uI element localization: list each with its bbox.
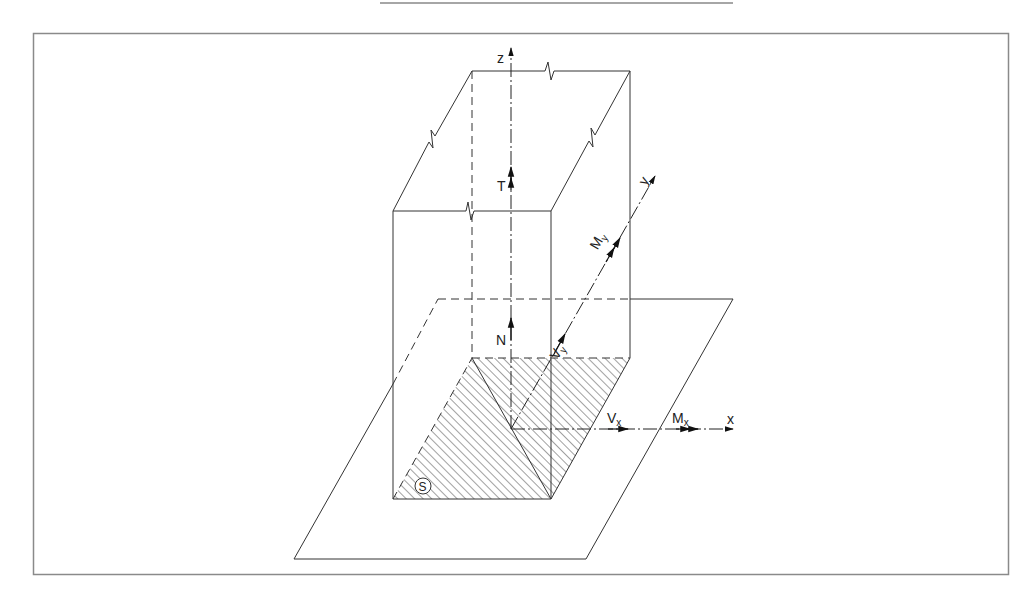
section-label: S xyxy=(419,480,427,494)
normal-label: N xyxy=(496,332,506,348)
moment-y-label: My xyxy=(586,229,610,252)
y-axis-label: y xyxy=(635,174,652,188)
z-axis-label: z xyxy=(497,50,504,66)
structural-member-diagram: z y x T N Vy My Vx Mx S xyxy=(0,0,1034,599)
torsion-label: T xyxy=(497,178,506,194)
moment-y-arrow-2 xyxy=(612,238,620,252)
shear-x-label: Vx xyxy=(607,410,621,428)
svg-text:My: My xyxy=(586,229,610,252)
moment-x-label: Mx xyxy=(672,410,689,428)
x-axis-label: x xyxy=(727,411,734,427)
